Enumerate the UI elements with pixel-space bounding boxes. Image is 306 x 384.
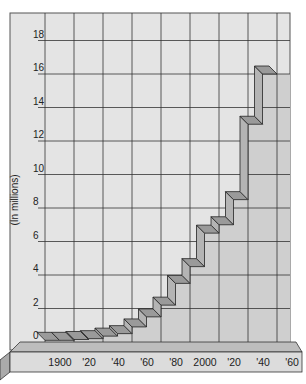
step-riser: [255, 66, 263, 124]
y-tick-label: 16: [33, 62, 45, 73]
staircase-chart: 024681012141618 1900'20'40'60'802000'20'…: [0, 0, 306, 384]
x-tick-label: 2000: [193, 356, 217, 368]
y-tick-label: 4: [33, 263, 39, 274]
x-tick-label: '20: [82, 356, 96, 368]
y-tick-label: 10: [33, 163, 45, 174]
x-tick-label: '60: [285, 356, 299, 368]
x-tick-label: '80: [169, 356, 183, 368]
y-tick-label: 6: [33, 230, 39, 241]
x-tick-label: '40: [256, 356, 270, 368]
x-tick-label: '40: [111, 356, 125, 368]
y-tick-label: 8: [33, 196, 39, 207]
x-tick-label: 1900: [48, 356, 72, 368]
x-ticks: 1900'20'40'60'802000'20'40'60: [48, 356, 299, 368]
y-tick-label: 0: [33, 330, 39, 341]
y-tick-label: 2: [33, 297, 39, 308]
y-tick-label: 18: [33, 29, 45, 40]
step-riser: [240, 116, 248, 199]
y-tick-label: 14: [33, 96, 45, 107]
x-tick-label: '60: [140, 356, 154, 368]
x-tick-label: '20: [227, 356, 241, 368]
y-axis-label: (In millions): [9, 174, 20, 225]
y-tick-label: 12: [33, 129, 45, 140]
